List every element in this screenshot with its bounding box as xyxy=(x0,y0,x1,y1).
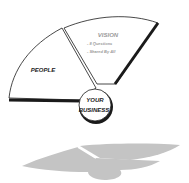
hub-your-business: YOUR BUSINESS xyxy=(79,89,113,124)
vision-bullet-2: - Shared By All xyxy=(87,49,116,54)
hub-line1: YOUR xyxy=(86,97,104,103)
vision-bullet-1: - 8 Questions xyxy=(87,41,113,46)
hub-line2: BUSINESS xyxy=(79,107,110,113)
fan-diagram: YOUR BUSINESS PEOPLE VISION - 8 Question… xyxy=(0,0,189,183)
segment-people-label: PEOPLE xyxy=(31,67,56,73)
segment-vision-label: VISION xyxy=(98,32,119,38)
diagram-shadow xyxy=(22,144,180,180)
